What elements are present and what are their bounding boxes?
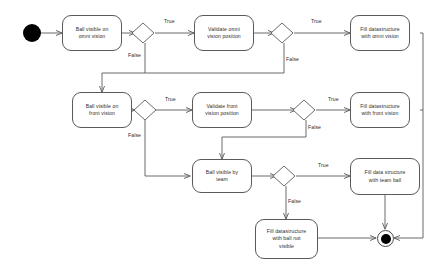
initial-node <box>23 24 41 42</box>
decision-node-2[interactable] <box>270 22 294 44</box>
activity-fill-omni[interactable]: Fill datastructure with omni vision <box>350 15 410 51</box>
activity-label-line: with ball not <box>267 235 307 242</box>
decision-node-1[interactable] <box>131 22 155 44</box>
activity-label-line: Ball visible on <box>76 26 109 33</box>
edge-label-d2-true: True <box>311 18 322 24</box>
activity-diagram-canvas: Ball visible on omni vision True False V… <box>0 0 441 271</box>
edge-label-d1-true: True <box>164 18 175 24</box>
activity-label-line: Ball visible by <box>206 169 238 176</box>
edge-d3-false <box>145 120 190 176</box>
activity-label-line: vision position <box>207 33 241 40</box>
edge-label-d4-true: True <box>328 96 339 102</box>
edge-label-d1-false: False <box>128 52 141 58</box>
activity-label-line: with front vision <box>360 110 400 117</box>
activity-ball-visible-front[interactable]: Ball visible on front vision <box>72 92 132 128</box>
edge-label-d4-false: False <box>308 124 321 130</box>
activity-validate-omni[interactable]: Validate omni vision position <box>194 15 254 51</box>
activity-label-line: Fill datastructure <box>267 228 307 235</box>
edge-label-d3-true: True <box>165 96 176 102</box>
activity-label-line: Validate front <box>205 103 239 110</box>
activity-label-line: with team ball <box>364 177 405 184</box>
edge-label-d5-true: True <box>318 162 329 168</box>
activity-label-line: omni vision <box>76 33 109 40</box>
activity-validate-front[interactable]: Validate front vision position <box>192 92 252 128</box>
activity-label-line: vision position <box>205 110 239 117</box>
edge-label-d2-false: False <box>286 56 299 62</box>
decision-node-3[interactable] <box>133 99 157 121</box>
activity-label-line: team <box>206 176 238 183</box>
activity-label-line: Fill datastructure <box>360 103 400 110</box>
activity-label-line: Fill datastructure <box>360 26 400 33</box>
activity-label-line: Validate omni <box>207 26 241 33</box>
activity-label-line: Fill data structure <box>364 169 405 176</box>
activity-fill-team-ball[interactable]: Fill data structure with team ball <box>350 158 420 195</box>
final-node <box>377 230 394 247</box>
edge-label-d3-false: False <box>128 132 141 138</box>
activity-fill-front[interactable]: Fill datastructure with front vision <box>350 92 410 128</box>
decision-node-4[interactable] <box>292 99 316 121</box>
activity-fill-ball-not-visible[interactable]: Fill datastructure with ball not visible <box>255 219 318 259</box>
decision-node-5[interactable] <box>272 165 296 187</box>
edge-label-d5-false: False <box>288 198 301 204</box>
edge-row1-false-bus <box>102 73 284 92</box>
edge-fillomni-return <box>394 33 423 238</box>
activity-ball-visible-omni[interactable]: Ball visible on omni vision <box>62 15 122 51</box>
activity-ball-visible-team[interactable]: Ball visible by team <box>192 159 252 193</box>
activity-label-line: Ball visible on <box>86 103 119 110</box>
activity-label-line: visible <box>267 243 307 250</box>
activity-label-line: front vision <box>86 110 119 117</box>
activity-label-line: with omni vision <box>360 33 400 40</box>
